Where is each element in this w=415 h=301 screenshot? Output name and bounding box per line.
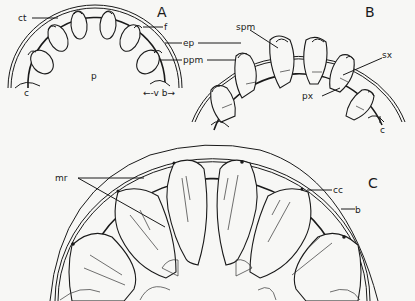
label-sx: sx (382, 50, 393, 60)
panel-label-b: B (365, 4, 375, 20)
label-ppm: ppm (183, 55, 203, 65)
panel-label-c: C (368, 175, 378, 191)
panel-b: B spm sx px c (192, 4, 405, 135)
label-b: b (355, 205, 361, 215)
panel-label-a: A (157, 4, 167, 20)
label-mr: mr (55, 173, 68, 183)
label-f: f (164, 22, 168, 32)
label-p: p (91, 71, 97, 81)
scientific-figure: A ct f p c ←-v b→ ep ppm (0, 0, 415, 301)
label-c-b: c (380, 125, 385, 135)
label-ep: ep (183, 38, 195, 48)
panel-b-cells (211, 36, 374, 122)
label-spm: spm (236, 22, 255, 32)
label-cc: cc (333, 185, 343, 195)
panel-a-cells (26, 10, 164, 78)
label-c-a: c (24, 88, 29, 98)
leader-px (322, 88, 340, 96)
panel-c: C mr cc b (50, 145, 378, 301)
panel-a: A ct f p c ←-v b→ (8, 4, 182, 98)
label-px: px (302, 91, 314, 101)
label-v-b: ←-v b→ (143, 88, 175, 98)
label-ct: ct (18, 13, 27, 23)
